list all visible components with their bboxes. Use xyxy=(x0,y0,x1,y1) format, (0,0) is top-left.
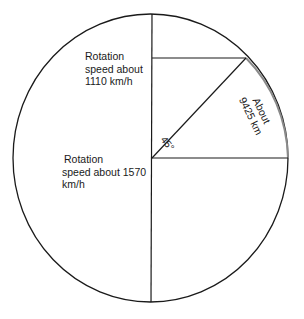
upper-speed-line-2: speed about xyxy=(85,63,143,76)
upper-speed-line-3: 1110 km/h xyxy=(85,75,143,88)
equator-speed-label: Rotation speed about 1570 km/h xyxy=(62,153,146,191)
equator-speed-line-3: km/h xyxy=(62,178,146,191)
polar-axis-line xyxy=(151,14,152,302)
upper-speed-line-1: Rotation xyxy=(85,50,143,63)
upper-speed-label: Rotation speed about 1110 km/h xyxy=(85,50,143,88)
equator-speed-line-1: Rotation xyxy=(62,153,146,166)
globe-diagram xyxy=(0,0,304,319)
equator-speed-line-2: speed about 1570 xyxy=(62,166,146,179)
